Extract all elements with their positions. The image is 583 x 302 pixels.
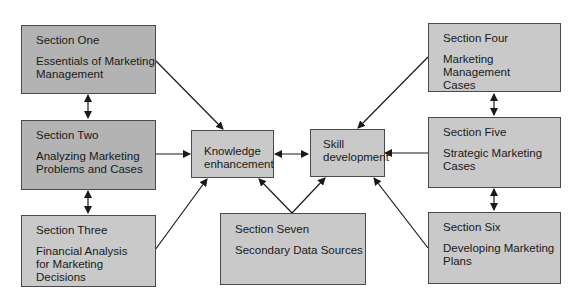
skill-development-label: Skill development [323, 138, 389, 164]
knowledge-enhancement-box: Knowledge enhancement [191, 130, 274, 178]
section-seven-box: Section Seven Secondary Data Sources [220, 213, 366, 285]
section-six-title: Section Six [443, 221, 501, 234]
skill-development-box: Skill development [310, 129, 385, 177]
section-two-title: Section Two [36, 129, 98, 142]
section-one-box: Section One Essentials of Marketing Mana… [21, 25, 156, 94]
section-six-box: Section Six Developing Marketing Plans [428, 212, 561, 284]
section-two-box: Section Two Analyzing Marketing Problems… [21, 120, 156, 190]
arrow-seven-to-skill [292, 178, 325, 213]
section-four-title: Section Four [443, 32, 508, 45]
section-four-box: Section Four Marketing Management Cases [428, 23, 561, 92]
section-three-subtitle: Financial Analysis for Marketing Decisio… [36, 245, 127, 284]
section-five-box: Section Five Strategic Marketing Cases [428, 117, 561, 188]
arrow-seven-to-knowledge [259, 179, 292, 213]
section-two-subtitle: Analyzing Marketing Problems and Cases [36, 150, 143, 176]
arrow-four-to-skill [358, 57, 428, 128]
section-three-box: Section Three Financial Analysis for Mar… [21, 215, 156, 287]
arrow-one-to-knowledge [155, 60, 223, 129]
section-six-subtitle: Developing Marketing Plans [443, 242, 554, 268]
section-seven-title: Section Seven [235, 223, 309, 236]
arrow-six-to-skill [374, 178, 428, 248]
section-three-title: Section Three [36, 224, 107, 237]
section-one-title: Section One [36, 34, 99, 47]
arrow-three-to-knowledge [155, 179, 207, 250]
section-seven-subtitle: Secondary Data Sources [235, 244, 363, 257]
section-five-title: Section Five [443, 126, 506, 139]
section-five-subtitle: Strategic Marketing Cases [443, 147, 542, 173]
section-one-subtitle: Essentials of Marketing Management [36, 55, 155, 81]
knowledge-enhancement-label: Knowledge enhancement [204, 145, 274, 171]
section-four-subtitle: Marketing Management Cases [443, 53, 560, 92]
